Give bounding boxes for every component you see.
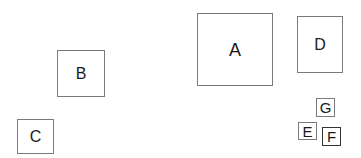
node-e-label: E — [302, 124, 312, 139]
node-a-label: A — [229, 41, 241, 59]
node-e: E — [298, 122, 317, 140]
node-c-label: C — [30, 129, 42, 145]
node-f: F — [322, 127, 341, 146]
node-d: D — [297, 16, 343, 73]
node-a: A — [197, 13, 273, 86]
node-b-label: B — [76, 66, 87, 82]
node-g: G — [316, 98, 335, 117]
node-d-label: D — [314, 37, 326, 53]
diagram-canvas: A B C D G E F — [0, 0, 361, 158]
node-c: C — [17, 119, 54, 154]
node-f-label: F — [327, 129, 336, 144]
node-b: B — [57, 50, 105, 97]
node-g-label: G — [320, 100, 332, 115]
